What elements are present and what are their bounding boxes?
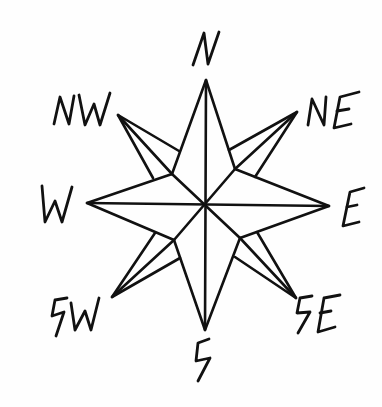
label-n (193, 32, 219, 65)
west-east-axis (87, 203, 329, 206)
spike-se-centerline (240, 238, 296, 298)
label-w (42, 186, 72, 222)
spike-nw (118, 115, 179, 178)
label-sw (52, 298, 99, 336)
label-se (297, 295, 340, 333)
label-nw (54, 93, 110, 125)
spike-se (235, 232, 296, 298)
label-e (343, 188, 364, 226)
spike-ne (229, 112, 297, 177)
spike-sw (112, 233, 180, 297)
compass-rose-svg (0, 0, 382, 407)
label-ne (308, 92, 359, 128)
compass-rose-diagram: N NE E SE S SW W NW (0, 0, 382, 407)
label-s (196, 339, 210, 381)
